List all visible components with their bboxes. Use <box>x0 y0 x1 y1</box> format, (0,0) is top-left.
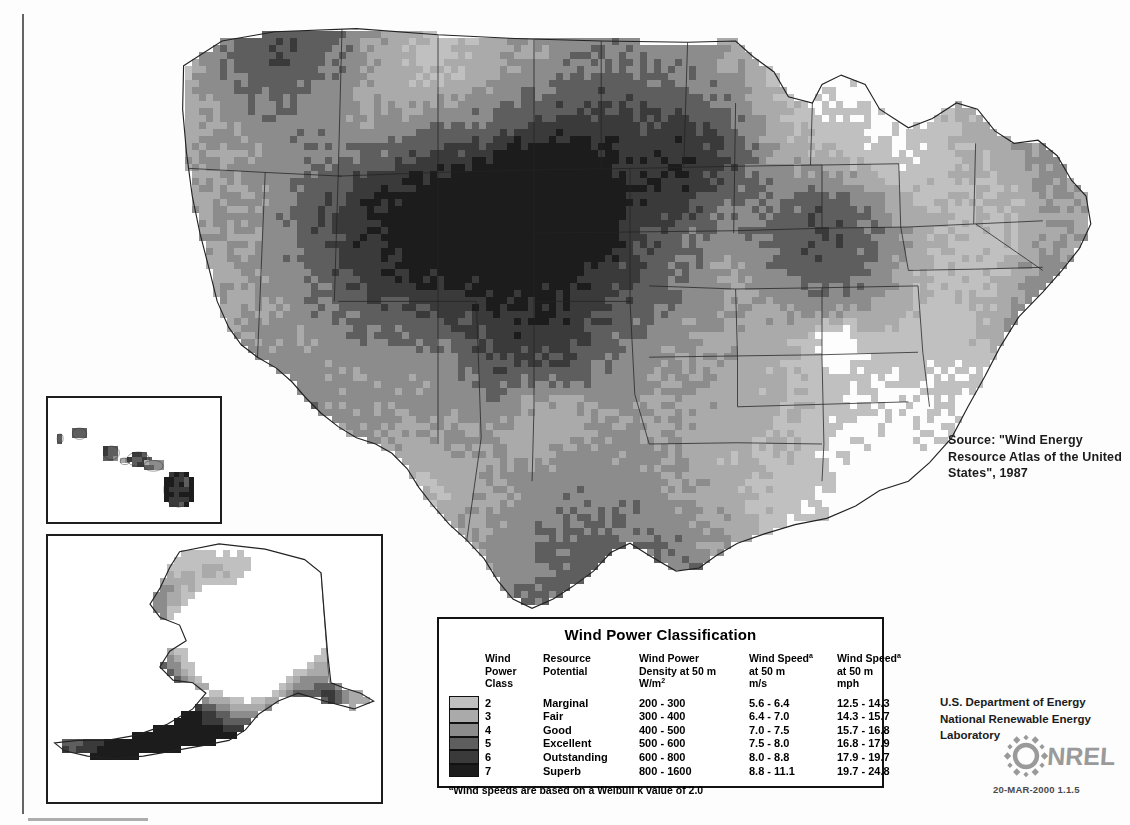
legend-speed-mph: 16.8 - 17.9 <box>837 737 927 749</box>
legend-swatch <box>449 750 479 764</box>
legend-title: Wind Power Classification <box>439 626 882 643</box>
alaska-wind-map <box>48 536 377 798</box>
wind-power-classification-legend: Wind Power Classification WindPowerClass… <box>437 617 884 788</box>
legend-header-density: Wind PowerDensity at 50 mW/m2 <box>639 652 749 690</box>
legend-density: 300 - 400 <box>639 710 749 722</box>
legend-density: 800 - 1600 <box>639 765 749 777</box>
legend-potential: Superb <box>543 765 639 777</box>
legend-speed-ms: 7.5 - 8.0 <box>749 737 837 749</box>
legend-footnote: aWind speeds are based on a Weibull k va… <box>439 784 882 796</box>
legend-swatch <box>449 737 479 751</box>
legend-header-speed-mph: Wind Speedaat 50 mmph <box>837 652 927 690</box>
legend-speed-ms: 8.0 - 8.8 <box>749 751 837 763</box>
nrel-logo-svg: NREL <box>1003 733 1115 779</box>
legend-class-number: 3 <box>485 710 500 722</box>
scan-artifact-bottom <box>28 818 148 821</box>
legend-speed-mph: 14.3 - 15.7 <box>837 710 927 722</box>
legend-speed-ms: 5.6 - 6.4 <box>749 697 837 709</box>
legend-swatch <box>449 723 479 737</box>
legend-speed-ms: 6.4 - 7.0 <box>749 710 837 722</box>
legend-row: 3Fair300 - 4006.4 - 7.014.3 - 15.7 <box>449 709 882 723</box>
legend-density: 200 - 300 <box>639 697 749 709</box>
legend-row: 5Excellent500 - 6007.5 - 8.016.8 - 17.9 <box>449 737 882 751</box>
legend-class-number: 2 <box>485 697 500 709</box>
legend-class-cell: 2 <box>485 697 543 709</box>
legend-class-cell: 3 <box>485 710 543 722</box>
legend-density: 600 - 800 <box>639 751 749 763</box>
legend-swatch-header <box>449 652 485 690</box>
legend-speed-mph: 19.7 - 24.8 <box>837 765 927 777</box>
legend-row: 6Outstanding600 - 8008.0 - 8.817.9 - 19.… <box>449 750 882 764</box>
legend-potential: Outstanding <box>543 751 639 763</box>
nrel-wordmark: NREL <box>1046 742 1115 770</box>
datestamp: 20-MAR-2000 1.1.5 <box>993 784 1080 795</box>
legend-row: 4Good400 - 5007.0 - 7.515.7 - 16.8 <box>449 723 882 737</box>
legend-potential: Good <box>543 724 639 736</box>
legend-swatch <box>449 764 479 778</box>
nrel-sunburst-icon: NREL <box>1003 733 1115 783</box>
legend-class-number: 7 <box>485 765 500 777</box>
hawaii-wind-map <box>48 398 216 518</box>
legend-row: 7Superb800 - 16008.8 - 11.119.7 - 24.8 <box>449 764 882 778</box>
legend-density: 500 - 600 <box>639 737 749 749</box>
legend-header-class: WindPowerClass <box>485 652 543 690</box>
source-note: Source: "Wind Energy Resource Atlas of t… <box>948 432 1128 482</box>
scan-artifact-line <box>22 14 24 814</box>
map-page: Source: "Wind Energy Resource Atlas of t… <box>0 0 1130 825</box>
hawaii-inset <box>46 396 222 524</box>
legend-density: 400 - 500 <box>639 724 749 736</box>
legend-speed-mph: 15.7 - 16.8 <box>837 724 927 736</box>
legend-header-potential: ResourcePotential <box>543 652 639 690</box>
legend-swatch <box>449 696 479 710</box>
alaska-inset <box>46 534 383 804</box>
legend-speed-mph: 17.9 - 19.7 <box>837 751 927 763</box>
legend-swatch <box>449 709 479 723</box>
legend-class-number: 4 <box>485 724 500 736</box>
legend-speed-ms: 7.0 - 7.5 <box>749 724 837 736</box>
legend-speed-mph: 12.5 - 14.3 <box>837 697 927 709</box>
legend-class-cell: 4 <box>485 724 543 736</box>
legend-header-speed-ms: Wind Speedaat 50 mm/s <box>749 652 837 690</box>
legend-potential: Excellent <box>543 737 639 749</box>
legend-potential: Marginal <box>543 697 639 709</box>
legend-rows: 2Marginal200 - 3005.6 - 6.412.5 - 14.33F… <box>439 696 882 778</box>
legend-speed-ms: 8.8 - 11.1 <box>749 765 837 777</box>
legend-class-cell: 5 <box>485 737 543 749</box>
legend-class-cell: 7 <box>485 765 543 777</box>
legend-column-headers: WindPowerClass ResourcePotential Wind Po… <box>439 652 882 690</box>
legend-row: 2Marginal200 - 3005.6 - 6.412.5 - 14.3 <box>449 696 882 710</box>
legend-potential: Fair <box>543 710 639 722</box>
legend-class-number: 5 <box>485 737 500 749</box>
agency-line-1: U.S. Department of Energy <box>940 694 1130 711</box>
legend-class-cell: 6 <box>485 751 543 763</box>
legend-class-number: 6 <box>485 751 500 763</box>
